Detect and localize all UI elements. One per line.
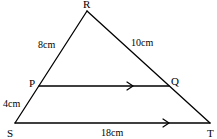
triangle-diagram: R P Q S T 8cm 10cm 4cm 18cm bbox=[0, 0, 217, 139]
side-RT bbox=[87, 11, 210, 123]
side-RS bbox=[15, 11, 87, 123]
point-label-T: T bbox=[207, 127, 214, 139]
length-label-PS: 4cm bbox=[3, 98, 20, 109]
point-label-Q: Q bbox=[171, 75, 179, 87]
point-label-S: S bbox=[7, 127, 13, 139]
point-label-R: R bbox=[83, 0, 91, 10]
length-label-RP: 8cm bbox=[38, 39, 55, 50]
length-label-RQ: 10cm bbox=[131, 37, 153, 48]
point-label-P: P bbox=[29, 77, 35, 89]
length-label-ST: 18cm bbox=[101, 127, 123, 138]
